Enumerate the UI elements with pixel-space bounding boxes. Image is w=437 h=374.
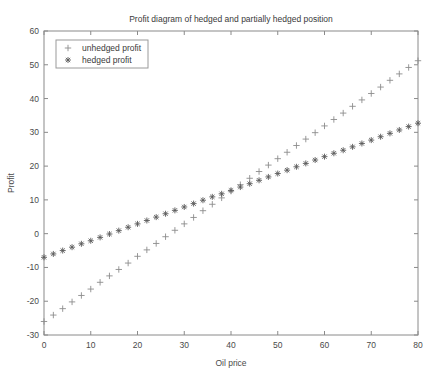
data-point <box>247 181 253 187</box>
y-tick-label: -20 <box>27 296 40 306</box>
data-point <box>237 184 243 190</box>
data-point <box>65 57 71 63</box>
data-point <box>200 197 206 203</box>
y-axis-title: Profit <box>6 172 16 192</box>
legend-label-hedged-profit: hedged profit <box>82 55 132 65</box>
y-tick-label: 20 <box>30 161 40 171</box>
data-point <box>78 241 84 247</box>
x-axis-title: Oil price <box>215 358 246 368</box>
data-point <box>106 231 112 237</box>
data-point <box>191 201 197 207</box>
data-point <box>135 221 141 227</box>
data-point <box>125 224 131 230</box>
data-point <box>97 234 103 240</box>
data-point <box>153 214 159 220</box>
data-point <box>303 160 309 166</box>
y-tick-label: 0 <box>34 229 39 239</box>
y-tick-label: 50 <box>30 60 40 70</box>
profit-diagram-chart: Profit diagram of hedged and partially h… <box>0 0 437 374</box>
data-point <box>116 228 122 234</box>
data-point <box>144 217 150 223</box>
y-tick-label: 10 <box>30 195 40 205</box>
data-point <box>265 174 271 180</box>
x-tick-label: 50 <box>273 340 283 350</box>
x-tick-label: 80 <box>413 340 423 350</box>
x-tick-label: 0 <box>42 340 47 350</box>
data-point <box>219 191 225 197</box>
data-point <box>41 254 47 260</box>
y-tick-label: -30 <box>27 330 40 340</box>
data-point <box>293 164 299 170</box>
data-point <box>88 238 94 244</box>
x-tick-label: 60 <box>320 340 330 350</box>
data-point <box>172 207 178 213</box>
x-tick-label: 40 <box>226 340 236 350</box>
data-point <box>415 120 421 126</box>
data-point <box>50 251 56 257</box>
chart-title: Profit diagram of hedged and partially h… <box>129 14 333 24</box>
data-point <box>256 177 262 183</box>
data-point <box>60 248 66 254</box>
data-point <box>359 140 365 146</box>
data-point <box>378 134 384 140</box>
legend[interactable]: unhedged profithedged profit <box>56 40 148 68</box>
y-tick-label: 40 <box>30 94 40 104</box>
data-point <box>181 204 187 210</box>
data-point <box>284 167 290 173</box>
data-point <box>312 157 318 163</box>
data-point <box>69 244 75 250</box>
data-point <box>209 194 215 200</box>
x-tick-label: 70 <box>367 340 377 350</box>
data-point <box>331 150 337 156</box>
data-point <box>322 154 328 160</box>
x-tick-label: 10 <box>86 340 96 350</box>
data-point <box>350 144 356 150</box>
y-tick-label: -10 <box>27 262 40 272</box>
x-tick-label: 30 <box>180 340 190 350</box>
figure-container: Profit diagram of hedged and partially h… <box>0 0 437 374</box>
x-tick-label: 20 <box>133 340 143 350</box>
data-point <box>340 147 346 153</box>
data-point <box>275 171 281 177</box>
data-point <box>228 187 234 193</box>
data-point <box>368 137 374 143</box>
data-point <box>396 127 402 133</box>
data-point <box>163 211 169 217</box>
data-point <box>387 130 393 136</box>
legend-label-unhedged-profit: unhedged profit <box>82 43 142 53</box>
y-tick-label: 30 <box>30 127 40 137</box>
y-tick-label: 60 <box>30 26 40 36</box>
data-point <box>406 124 412 130</box>
